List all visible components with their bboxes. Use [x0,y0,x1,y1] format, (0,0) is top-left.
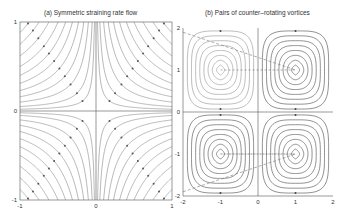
flow-arrow-icon [137,160,139,162]
flow-arrow-icon [58,67,60,69]
flow-arrow-icon [142,53,144,55]
x-tick-label: 1 [170,203,174,209]
streamline [20,22,66,75]
streamline [143,166,172,200]
y-tick-label: -2 [175,193,181,199]
flow-arrow-icon [64,145,66,147]
streamline [134,156,172,200]
flow-arrow-icon [126,145,128,147]
y-tick-label: 0 [14,108,18,114]
flow-arrow-icon [27,198,29,200]
flow-arrow-icon [163,198,165,200]
streamline [108,125,172,200]
flow-arrow-icon [27,22,29,24]
x-tick-label: -1 [17,203,23,209]
y-tick-label: -1 [175,151,181,157]
flow-arrow-icon [295,192,297,194]
flow-arrow-icon [114,92,116,94]
flow-arrow-icon [295,114,297,116]
y-tick-label: -1 [12,197,18,203]
streamline [20,22,94,109]
streamline [20,22,49,56]
flow-arrow-icon [53,60,55,62]
x-tick-label: 0 [256,199,260,205]
flow-arrow-icon [295,108,297,110]
flow-arrow-icon [64,75,66,77]
streamline [98,22,172,109]
flow-arrow-icon [70,137,72,139]
streamline [20,166,49,200]
streamline [20,139,72,200]
x-tick-label: 2 [331,199,335,205]
flow-arrow-icon [126,75,128,77]
flow-arrow-icon [37,37,39,39]
streamline [143,22,172,56]
y-tick-label: 2 [177,25,181,31]
streamline [134,22,172,66]
streamline [113,131,172,199]
flow-arrow-icon [142,167,144,169]
y-tick-label: 1 [14,19,18,25]
streamline [20,156,58,200]
flow-arrow-icon [220,108,222,110]
flow-arrow-icon [37,183,39,185]
flow-arrow-icon [153,37,155,39]
x-tick-label: 0 [94,203,98,209]
figure-canvas: -10110-1-2-1012210-1-2 [0,0,348,220]
y-tick-label: 1 [177,67,181,73]
streamline [20,147,66,200]
flow-arrow-icon [295,30,297,32]
streamline [120,139,172,200]
y-tick-label: 0 [177,109,181,115]
streamline [20,22,72,83]
streamline [20,131,79,199]
flow-arrow-icon [220,192,222,194]
flow-arrow-icon [132,67,134,69]
panel-b: -2-1012210-1-2 [175,25,336,205]
streamline [98,113,172,200]
streamline [20,22,84,97]
flow-arrow-icon [32,190,34,192]
flow-arrow-icon [70,83,72,85]
flow-arrow-icon [76,92,78,94]
streamline [20,22,58,66]
streamline [126,22,172,75]
flow-arrow-icon [137,60,139,62]
flow-arrow-icon [82,120,84,122]
flow-arrow-icon [158,190,160,192]
flow-arrow-icon [48,167,50,169]
streamline [20,22,79,90]
flow-arrow-icon [82,100,84,102]
streamline [20,125,84,200]
flow-arrow-icon [153,183,155,185]
flow-arrow-icon [158,30,160,32]
panel-a: -10110-1 [12,19,175,209]
flow-arrow-icon [43,175,45,177]
flow-arrow-icon [163,22,165,24]
flow-arrow-icon [32,30,34,32]
flow-arrow-icon [108,100,110,102]
streamline [20,113,94,200]
x-tick-label: -2 [180,199,186,205]
x-tick-label: -1 [218,199,224,205]
flow-arrow-icon [132,153,134,155]
streamline [113,22,172,90]
flow-arrow-icon [43,45,45,47]
flow-arrow-icon [220,114,222,116]
flow-arrow-icon [120,137,122,139]
flow-arrow-icon [147,175,149,177]
streamline [108,22,172,97]
flow-arrow-icon [108,120,110,122]
x-tick-label: 1 [294,199,298,205]
flow-arrow-icon [147,45,149,47]
flow-arrow-icon [48,53,50,55]
flow-arrow-icon [220,30,222,32]
streamline [126,147,172,200]
flow-arrow-icon [114,128,116,130]
flow-arrow-icon [120,83,122,85]
flow-arrow-icon [76,128,78,130]
streamline [120,22,172,83]
flow-arrow-icon [58,153,60,155]
flow-arrow-icon [53,160,55,162]
